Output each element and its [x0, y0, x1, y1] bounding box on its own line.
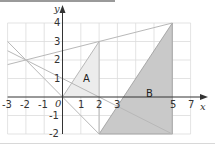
x-tick: 5 [170, 99, 176, 110]
x-axis-label: x [200, 101, 206, 112]
y-tick: 2 [54, 54, 60, 65]
y-axis-label: y [53, 3, 60, 14]
x-tick: -2 [20, 99, 30, 110]
y-tick: -1 [49, 110, 59, 121]
y-tick: -2 [49, 128, 59, 139]
y-tick: 3 [54, 36, 60, 47]
origin-label: 0 [55, 98, 62, 109]
x-tick: -3 [2, 99, 12, 110]
x-tick: -1 [38, 99, 48, 110]
region-a-label: A [83, 73, 90, 84]
bottom-rule [0, 143, 215, 144]
x-tick: 2 [96, 99, 102, 110]
x-tick: 3 [114, 99, 120, 110]
x-tick: 1 [78, 99, 84, 110]
region-b-label: B [146, 88, 153, 99]
x-axis-arrow-icon [200, 94, 208, 100]
x-tick: 7 [188, 99, 194, 110]
coordinate-diagram: x y -3 -2 -1 0 1 2 3 5 7 4 3 2 1 -1 -2 A… [0, 0, 215, 147]
y-tick: 1 [54, 73, 60, 84]
y-axis-arrow-icon [60, 5, 66, 13]
y-tick: 4 [54, 17, 60, 28]
